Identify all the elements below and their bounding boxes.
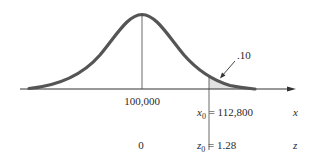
x-axis-label: x: [292, 106, 298, 118]
mean-label: 100,000: [124, 95, 160, 107]
tail-area-label: .10: [237, 49, 251, 61]
x0-label: x0 = 112,800: [196, 106, 253, 121]
z-axis-label: z: [292, 139, 298, 151]
tail-arrow: [222, 61, 235, 76]
z0-label: z0 = 1.28: [196, 139, 237, 154]
z-mean-label: 0: [138, 139, 144, 151]
normal-curve-diagram: .10 100,000 x0 = 112,800 x 0 z0 = 1.28 z: [0, 0, 309, 163]
axis-arrow-icon: [287, 87, 296, 92]
